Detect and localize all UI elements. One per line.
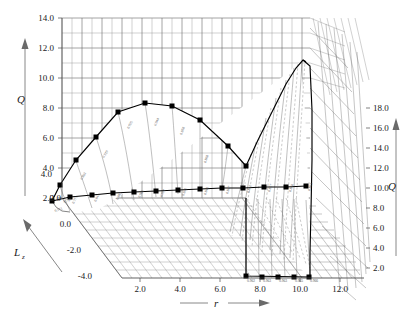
right-q-axis-arrow-icon <box>393 118 400 130</box>
label-0947: 0.947 <box>225 185 231 194</box>
lz-tick-0: 0.0 <box>60 219 72 229</box>
right-q-tick-2: 2.0 <box>373 263 385 273</box>
lz-axis-subscript: z <box>21 253 25 261</box>
left-q-tick-14: 14.0 <box>38 13 54 23</box>
r-axis-arrow-icon <box>259 300 270 307</box>
right-q-axis-title: Q <box>388 180 396 192</box>
r-tick-2: 2.0 <box>134 284 146 294</box>
label-base-0966: 0.966 <box>310 279 318 283</box>
label-0921: 0.921 <box>159 188 166 197</box>
right-wall-hatch <box>310 22 370 300</box>
left-q-tick-10: 10.0 <box>38 73 54 83</box>
left-q-axis: 14.0 12.0 10.0 8.0 6.0 4.0 2.0 Q <box>17 13 62 203</box>
right-q-tick-18: 18.0 <box>373 103 389 113</box>
right-q-tick-12: 12.0 <box>373 163 389 173</box>
surface-plot-svg: 0.571 0.787 0.777 0.863 0.847 0.919 0.88… <box>0 0 400 310</box>
back-right-wall-mesh <box>310 18 369 95</box>
lz-tick-m4: -4.0 <box>78 271 93 281</box>
label-base-0963b: 0.963 <box>279 279 287 283</box>
bottom-r-axis-title: r <box>214 297 219 309</box>
q-axis-arrow-icon <box>22 38 29 49</box>
left-q-tick-8: 8.0 <box>43 103 55 113</box>
right-q-tick-16: 16.0 <box>373 123 389 133</box>
r-tick-4: 4.0 <box>174 284 186 294</box>
lz-tick-2: 2.0 <box>50 193 62 203</box>
r-tick-10: 10.0 <box>292 284 308 294</box>
lz-tick-4: 4.0 <box>41 169 53 179</box>
label-0571: 0.571 <box>54 206 63 213</box>
right-q-tick-8: 8.0 <box>373 203 385 213</box>
left-q-axis-title: Q <box>17 93 25 105</box>
right-q-tick-14: 14.0 <box>373 143 389 153</box>
lz-tick-m2: -2.0 <box>67 245 82 255</box>
bottom-r-axis: 2.0 4.0 6.0 8.0 10.0 12.0 r <box>122 278 364 309</box>
right-q-tick-4: 4.0 <box>373 243 385 253</box>
label-0906: 0.906 <box>137 189 144 198</box>
lz-axis-arrow-icon <box>23 219 32 232</box>
label-base-0963: 0.963 <box>263 279 271 283</box>
right-q-tick-6: 6.0 <box>373 223 385 233</box>
label-base-0965: 0.965 <box>295 279 303 283</box>
r-tick-6: 6.0 <box>214 284 226 294</box>
lz-axis-title: L <box>13 246 20 258</box>
right-q-axis: 18.0 16.0 14.0 12.0 10.0 8.0 6.0 4.0 2.0… <box>366 103 400 273</box>
r-tick-12: 12.0 <box>332 284 348 294</box>
r-tick-8: 8.0 <box>254 284 266 294</box>
label-0940: 0.940 <box>203 186 209 195</box>
label-base-0962: 0.962 <box>247 279 255 283</box>
right-q-tick-10: 10.0 <box>373 183 389 193</box>
label-0968: 0.968 <box>203 154 209 163</box>
left-q-tick-6: 6.0 <box>43 133 55 143</box>
left-q-tick-12: 12.0 <box>38 43 54 53</box>
chart-root: 0.571 0.787 0.777 0.863 0.847 0.919 0.88… <box>0 0 400 310</box>
